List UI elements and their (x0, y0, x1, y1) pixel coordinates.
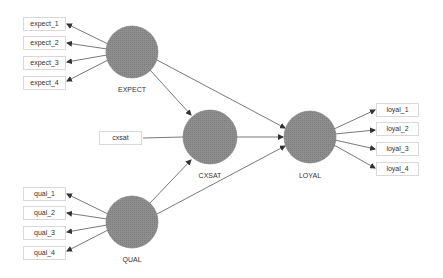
indicator-qual-4[interactable]: qual_4 (23, 246, 66, 260)
latent-cxsat-node[interactable] (183, 110, 237, 164)
indicator-expect-4[interactable]: expect_4 (23, 76, 66, 90)
indicator-qual-1[interactable]: qual_1 (23, 187, 66, 201)
indicator-cxsat[interactable]: cxsat (99, 131, 142, 145)
indicator-loyal-1[interactable]: loyal_1 (376, 103, 419, 117)
qual-loading-arrows (67, 194, 108, 251)
indicator-qual-2[interactable]: qual_2 (23, 206, 66, 220)
latent-cxsat-label: CXSAT (180, 172, 240, 179)
indicator-loyal-3[interactable]: loyal_3 (376, 142, 419, 156)
indicator-expect-2[interactable]: expect_2 (23, 36, 66, 50)
indicator-loyal-4[interactable]: loyal_4 (376, 162, 419, 176)
expect-loading-arrows (67, 24, 108, 81)
indicator-expect-1[interactable]: expect_1 (23, 17, 66, 31)
indicator-qual-3[interactable]: qual_3 (23, 226, 66, 240)
latent-qual-node[interactable] (106, 196, 158, 248)
indicator-loyal-2[interactable]: loyal_2 (376, 122, 419, 136)
latent-expect-node[interactable] (106, 26, 158, 78)
loyal-loading-arrows (334, 110, 375, 168)
indicator-expect-3[interactable]: expect_3 (23, 56, 66, 70)
latent-loyal-label: LOYAL (280, 172, 340, 179)
latent-expect-label: EXPECT (102, 86, 162, 93)
latent-loyal-node[interactable] (284, 111, 336, 163)
path-diagram-canvas (0, 0, 443, 278)
latent-qual-label: QUAL (102, 256, 162, 263)
